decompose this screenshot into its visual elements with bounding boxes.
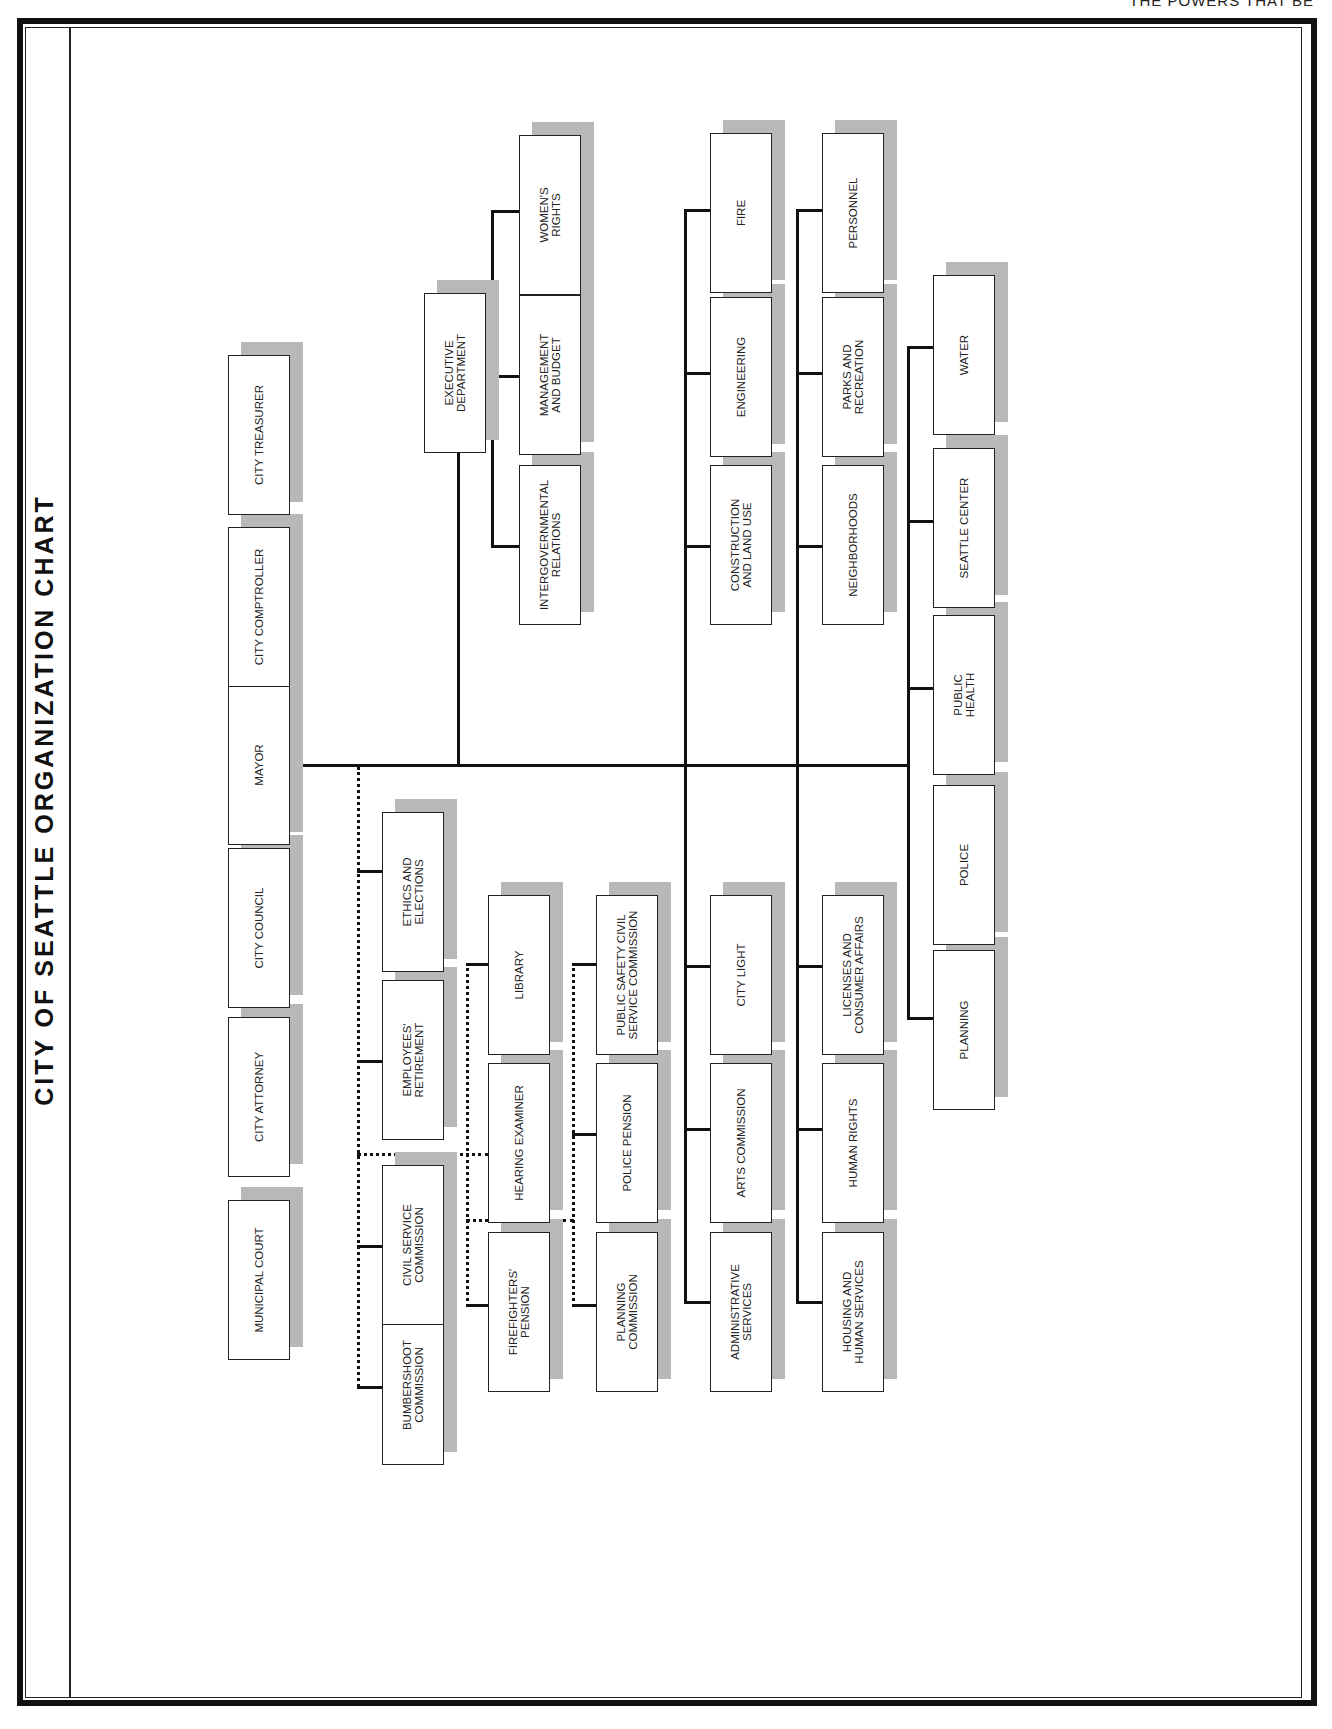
box-intergovernmental-relations: INTERGOVERNMENTAL RELATIONS <box>519 465 581 625</box>
box-fire: FIRE <box>710 133 772 293</box>
box-firefighters-pension: FIREFIGHTERS' PENSION <box>488 1232 550 1392</box>
connector-housing <box>796 1301 822 1304</box>
connector-engineering <box>684 372 710 375</box>
box-engineering: ENGINEERING <box>710 297 772 457</box>
box-personnel: PERSONNEL <box>822 133 884 293</box>
box-hearing-examiner: HEARING EXAMINER <box>488 1063 550 1223</box>
box-seattle-center: SEATTLE CENTER <box>933 448 995 608</box>
running-head: THE POWERS THAT BE <box>1129 0 1314 9</box>
box-city-treasurer: CITY TREASURER <box>228 355 290 515</box>
box-water: WATER <box>933 275 995 435</box>
connector-parks <box>796 372 822 375</box>
connector-police-pension <box>572 1133 596 1136</box>
box-arts-commission: ARTS COMMISSION <box>710 1063 772 1223</box>
box-housing-and-human-services: HOUSING AND HUMAN SERVICES <box>822 1232 884 1392</box>
connector-construction <box>684 545 710 548</box>
connector-human-rights <box>796 1128 822 1131</box>
box-planning-commission: PLANNING COMMISSION <box>596 1232 658 1392</box>
connector-planning <box>907 1017 933 1020</box>
connector-dept-col3-vertical <box>907 346 910 1020</box>
box-municipal-court: MUNICIPAL COURT <box>228 1200 290 1360</box>
connector-fire <box>684 209 710 212</box>
connector-seattle-center <box>907 520 933 523</box>
connector-civil-service <box>357 1245 382 1248</box>
connector-city-light <box>684 965 710 968</box>
box-administrative-services: ADMINISTRATIVE SERVICES <box>710 1232 772 1392</box>
box-city-light: CITY LIGHT <box>710 895 772 1055</box>
box-civil-service-commission: CIVIL SERVICE COMMISSION <box>382 1165 444 1325</box>
box-city-attorney: CITY ATTORNEY <box>228 1017 290 1177</box>
box-police-pension: POLICE PENSION <box>596 1063 658 1223</box>
box-mayor: MAYOR <box>228 685 290 845</box>
connector-intergovernmental <box>491 545 519 548</box>
frame-inner-border <box>25 27 1302 1698</box>
box-human-rights: HUMAN RIGHTS <box>822 1063 884 1223</box>
connector-employees-retirement <box>357 1060 382 1063</box>
connector-bumbershoot <box>357 1386 382 1389</box>
box-licenses-and-consumer-affairs: LICENSES AND CONSUMER AFFAIRS <box>822 895 884 1055</box>
chart-title: CITY OF SEATTLE ORGANIZATION CHART <box>30 494 59 1106</box>
connector-commissions-col2-dotted <box>466 963 469 1307</box>
connector-firefighters-pension <box>466 1304 488 1307</box>
box-executive-department: EXECUTIVE DEPARTMENT <box>424 293 486 453</box>
connector-planning-commission <box>572 1304 596 1307</box>
connector-public-health <box>907 687 933 690</box>
connector-executive <box>457 452 460 766</box>
box-library: LIBRARY <box>488 895 550 1055</box>
box-public-safety-civil-service-commission: PUBLIC SAFETY CIVIL SERVICE COMMISSION <box>596 895 658 1055</box>
connector-womens-rights <box>491 210 519 213</box>
box-planning: PLANNING <box>933 950 995 1110</box>
connector-commissions-col1-dotted <box>357 767 360 1387</box>
box-city-council: CITY COUNCIL <box>228 848 290 1008</box>
box-management-and-budget: MANAGEMENT AND BUDGET <box>519 295 581 455</box>
connector-administrative-services <box>684 1301 710 1304</box>
connector-licenses <box>796 965 822 968</box>
box-bumbershoot-commission: BUMBERSHOOT COMMISSION <box>382 1305 444 1465</box>
connector-public-safety <box>572 963 596 966</box>
box-police: POLICE <box>933 785 995 945</box>
connector-library <box>466 963 488 966</box>
connector-personnel <box>796 209 822 212</box>
connector-arts-commission <box>684 1128 710 1131</box>
connector-water <box>907 346 933 349</box>
box-construction-and-land-use: CONSTRUCTION AND LAND USE <box>710 465 772 625</box>
box-womens-rights: WOMEN'S RIGHTS <box>519 135 581 295</box>
box-ethics-and-elections: ETHICS AND ELECTIONS <box>382 812 444 972</box>
box-city-comptroller: CITY COMPTROLLER <box>228 527 290 687</box>
connector-ethics <box>357 870 382 873</box>
title-divider <box>69 28 71 1698</box>
connector-neighborhoods <box>796 545 822 548</box>
box-employees-retirement: EMPLOYEES' RETIREMENT <box>382 980 444 1140</box>
box-neighborhoods: NEIGHBORHOODS <box>822 465 884 625</box>
connector-main-horizontal <box>285 764 910 767</box>
box-parks-and-recreation: PARKS AND RECREATION <box>822 297 884 457</box>
box-public-health: PUBLIC HEALTH <box>933 615 995 775</box>
